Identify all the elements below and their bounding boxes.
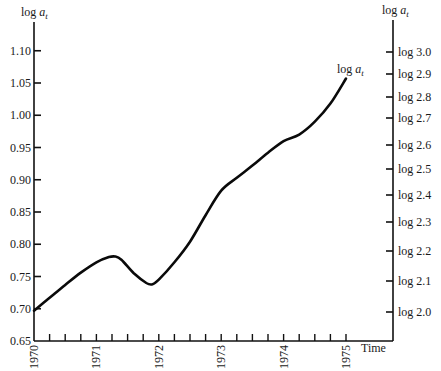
- y-tick-label: 0.90: [10, 173, 31, 187]
- right-y-tick-label: log 2.7: [398, 111, 431, 125]
- left-axis-title: log at: [21, 5, 48, 21]
- left-y-ticks: 0.650.700.750.800.850.900.951.001.051.10: [10, 44, 41, 348]
- y-tick-label: 1.05: [10, 76, 31, 90]
- y-tick-label: 0.80: [10, 237, 31, 251]
- right-y-tick-label: log 2.5: [398, 162, 431, 176]
- x-tick-label: 1971: [89, 345, 103, 369]
- right-y-tick-label: log 2.3: [398, 215, 431, 229]
- right-y-tick-label: log 2.8: [398, 90, 431, 104]
- y-tick-label: 0.85: [10, 205, 31, 219]
- x-ticks: 197019711972197319741975: [27, 334, 353, 369]
- x-tick-label: 1972: [152, 345, 166, 369]
- line-chart: 0.650.700.750.800.850.900.951.001.051.10…: [0, 0, 441, 371]
- right-y-tick-label: log 2.2: [398, 244, 431, 258]
- right-y-tick-label: log 2.4: [398, 188, 431, 202]
- series-line-log-at: [34, 79, 346, 311]
- y-tick-label: 1.00: [10, 108, 31, 122]
- x-tick-label: 1973: [214, 345, 228, 369]
- x-tick-label: 1975: [339, 345, 353, 369]
- x-tick-label: 1974: [277, 345, 291, 369]
- y-tick-label: 1.10: [10, 44, 31, 58]
- y-tick-label: 0.70: [10, 302, 31, 316]
- right-y-tick-label: log 2.9: [398, 67, 431, 81]
- right-y-tick-label: log 2.6: [398, 138, 431, 152]
- x-tick-label: 1970: [27, 345, 41, 369]
- right-y-tick-label: log 2.1: [398, 274, 431, 288]
- y-tick-label: 0.75: [10, 270, 31, 284]
- y-tick-label: 0.95: [10, 141, 31, 155]
- right-axis-title: log at: [382, 3, 409, 19]
- right-y-tick-label: log 3.0: [398, 45, 431, 59]
- x-axis-title: Time: [361, 341, 386, 355]
- right-y-tick-label: log 2.0: [398, 305, 431, 319]
- curve-label: log at: [337, 62, 364, 78]
